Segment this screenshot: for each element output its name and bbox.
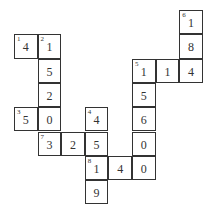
cell-value: 0: [133, 138, 155, 153]
grid-cell: 5: [85, 132, 109, 156]
cell-value: 5: [133, 89, 155, 104]
cell-value: 0: [39, 113, 61, 128]
cell-value: 1: [133, 65, 155, 80]
cell-value: 2: [39, 89, 61, 104]
cell-value: 9: [86, 186, 108, 201]
grid-cell: 21: [38, 34, 62, 58]
cell-value: 1: [157, 65, 179, 80]
grid-cell: 6: [132, 107, 156, 131]
grid-cell: 73: [38, 132, 62, 156]
grid-cell: 0: [132, 132, 156, 156]
grid-cell: 0: [132, 156, 156, 180]
cell-value: 5: [86, 138, 108, 153]
grid-cell: 51: [132, 59, 156, 83]
cell-value: 1: [39, 40, 61, 55]
grid-cell: 14: [14, 34, 38, 58]
cell-value: 5: [39, 65, 61, 80]
grid-cell: 35: [14, 107, 38, 131]
cell-value: 3: [39, 138, 61, 153]
cell-value: 4: [180, 65, 202, 80]
grid-cell: 5: [38, 59, 62, 83]
grid-cell: 8: [179, 34, 203, 58]
cell-value: 4: [109, 162, 131, 177]
cell-value: 5: [15, 113, 37, 128]
grid-cell: 9: [85, 180, 109, 204]
crossword-grid: 611421855114253504467325081409: [0, 0, 211, 219]
cell-value: 8: [180, 40, 202, 55]
grid-cell: 0: [38, 107, 62, 131]
grid-cell: 2: [61, 132, 85, 156]
cell-value: 2: [62, 138, 84, 153]
cell-value: 6: [133, 113, 155, 128]
grid-cell: 1: [156, 59, 180, 83]
cell-value: 4: [15, 40, 37, 55]
cell-value: 1: [86, 162, 108, 177]
grid-cell: 61: [179, 10, 203, 34]
grid-cell: 2: [38, 83, 62, 107]
cell-value: 0: [133, 162, 155, 177]
cell-value: 1: [180, 16, 202, 31]
grid-cell: 4: [179, 59, 203, 83]
grid-cell: 4: [108, 156, 132, 180]
grid-cell: 5: [132, 83, 156, 107]
grid-cell: 81: [85, 156, 109, 180]
grid-cell: 44: [85, 107, 109, 131]
cell-value: 4: [86, 113, 108, 128]
